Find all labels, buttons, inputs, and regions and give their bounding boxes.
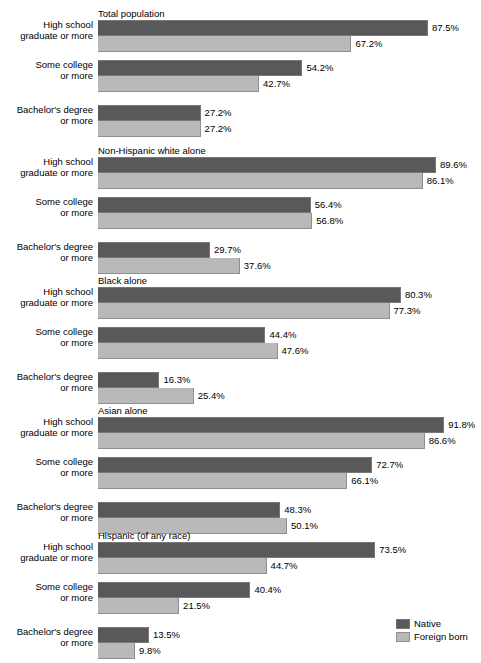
bar-value-label: 37.6% [244, 260, 271, 272]
legend-item-foreign-born: Foreign born [396, 631, 481, 643]
bar-foreign [98, 598, 179, 614]
bar-value-label: 13.5% [153, 629, 180, 641]
bar-value-label: 42.7% [263, 78, 290, 90]
bar-row-label: High schoolgraduate or more [0, 417, 93, 438]
bar-track-native: 44.4% [98, 327, 481, 343]
bar-row-label: Bachelor's degreeor more [0, 242, 93, 263]
bar-value-label: 80.3% [405, 289, 432, 301]
bar-track-native: 91.8% [98, 417, 481, 433]
bar-track-foreign: 77.3% [98, 303, 481, 319]
bar-track-native: 72.7% [98, 457, 481, 473]
bar-row: High schoolgraduate or more91.8%86.6% [0, 417, 481, 449]
bar-value-label: 44.4% [269, 329, 296, 341]
bar-row: High schoolgraduate or more89.6%86.1% [0, 157, 481, 189]
bar-value-label: 47.6% [282, 345, 309, 357]
bar-row: Some collegeor more72.7%66.1% [0, 457, 481, 489]
bar-track-native: 54.2% [98, 60, 481, 76]
bar-native [98, 627, 149, 643]
bar-row-label: Some collegeor more [0, 60, 93, 81]
bar-native [98, 157, 436, 173]
bar-value-label: 56.8% [316, 215, 343, 227]
bar-group-title: Non-Hispanic white alone [98, 145, 206, 156]
bar-value-label: 67.2% [355, 38, 382, 50]
bar-value-label: 73.5% [379, 544, 406, 556]
bar-value-label: 27.2% [205, 123, 232, 135]
bar-track-native: 87.5% [98, 20, 481, 36]
bar-foreign [98, 343, 278, 359]
legend-item-native: Native [396, 618, 481, 630]
bar-row-label: Bachelor's degreeor more [0, 105, 93, 126]
bar-row: Bachelor's degreeor more16.3%25.4% [0, 372, 481, 404]
bar-track-foreign: 44.7% [98, 558, 481, 574]
bar-value-label: 40.4% [254, 584, 281, 596]
bar-row: Some collegeor more44.4%47.6% [0, 327, 481, 359]
bar-row: High schoolgraduate or more80.3%77.3% [0, 287, 481, 319]
bar-value-label: 56.4% [315, 199, 342, 211]
bar-value-label: 21.5% [183, 600, 210, 612]
bar-row-label: Bachelor's degreeor more [0, 627, 93, 648]
bar-row: Some collegeor more40.4%21.5% [0, 582, 481, 614]
bar-track-native: 40.4% [98, 582, 481, 598]
bar-track-foreign: 25.4% [98, 388, 481, 404]
bar-row-label: Some collegeor more [0, 197, 93, 218]
bar-foreign [98, 213, 312, 229]
bar-track-foreign: 86.6% [98, 433, 481, 449]
bar-value-label: 91.8% [448, 419, 475, 431]
bar-native [98, 287, 401, 303]
bar-native [98, 60, 302, 76]
bar-track-foreign: 56.8% [98, 213, 481, 229]
legend-label-native: Native [414, 618, 441, 630]
bar-native [98, 417, 444, 433]
bar-native [98, 242, 210, 258]
bar-value-label: 29.7% [214, 244, 241, 256]
bar-track-native: 27.2% [98, 105, 481, 121]
bar-row-label: Bachelor's degreeor more [0, 502, 93, 523]
bar-row: Bachelor's degreeor more48.3%50.1% [0, 502, 481, 534]
bar-foreign [98, 558, 267, 574]
bar-track-foreign: 47.6% [98, 343, 481, 359]
bar-value-label: 50.1% [291, 520, 318, 532]
bar-row-label: High schoolgraduate or more [0, 20, 93, 41]
bar-foreign [98, 433, 425, 449]
grouped-bar-chart: Total populationHigh schoolgraduate or m… [0, 0, 481, 663]
bar-track-native: 29.7% [98, 242, 481, 258]
bar-group-title: Asian alone [98, 405, 148, 416]
bar-native [98, 197, 311, 213]
bar-row-label: Some collegeor more [0, 582, 93, 603]
bar-row: Bachelor's degreeor more29.7%37.6% [0, 242, 481, 274]
bar-row-label: High schoolgraduate or more [0, 157, 93, 178]
bar-track-foreign: 67.2% [98, 36, 481, 52]
bar-track-native: 89.6% [98, 157, 481, 173]
bar-row-label: High schoolgraduate or more [0, 287, 93, 308]
legend-swatch-foreign-born-icon [396, 632, 410, 642]
bar-native [98, 542, 375, 558]
bar-foreign [98, 76, 259, 92]
bar-native [98, 20, 428, 36]
bar-native [98, 582, 250, 598]
bar-track-foreign: 21.5% [98, 598, 481, 614]
bar-row-label: Some collegeor more [0, 327, 93, 348]
bar-native [98, 372, 159, 388]
bar-value-label: 25.4% [198, 390, 225, 402]
bar-value-label: 86.6% [429, 435, 456, 447]
bar-group-title: Black alone [98, 275, 147, 286]
bar-value-label: 27.2% [205, 107, 232, 119]
chart-legend: Native Foreign born [396, 618, 481, 644]
bar-track-native: 56.4% [98, 197, 481, 213]
bar-foreign [98, 303, 390, 319]
bar-row: Some collegeor more54.2%42.7% [0, 60, 481, 92]
bar-value-label: 77.3% [394, 305, 421, 317]
bar-row-label: High schoolgraduate or more [0, 542, 93, 563]
bar-foreign [98, 643, 135, 659]
bar-track-foreign: 9.8% [98, 643, 481, 659]
bar-native [98, 457, 372, 473]
bar-track-native: 16.3% [98, 372, 481, 388]
bar-value-label: 16.3% [163, 374, 190, 386]
bar-value-label: 89.6% [440, 159, 467, 171]
bar-value-label: 87.5% [432, 22, 459, 34]
bar-native [98, 502, 280, 518]
bar-native [98, 105, 201, 121]
bar-value-label: 72.7% [376, 459, 403, 471]
bar-row: Bachelor's degreeor more27.2%27.2% [0, 105, 481, 137]
bar-track-native: 48.3% [98, 502, 481, 518]
